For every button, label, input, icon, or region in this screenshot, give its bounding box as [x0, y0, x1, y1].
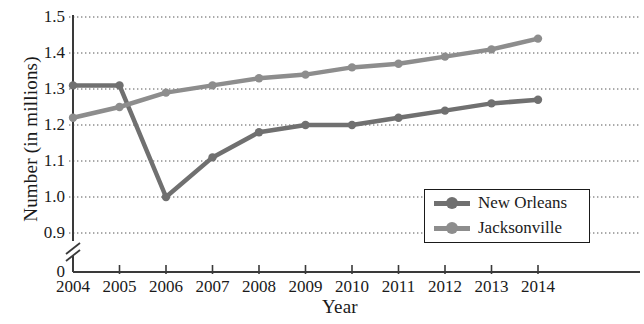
x-axis-title: Year [290, 296, 390, 318]
data-point [69, 81, 77, 89]
data-point [441, 52, 449, 60]
data-point [487, 45, 495, 53]
data-point [301, 70, 309, 78]
legend-dot [446, 197, 458, 209]
y-axis-tick-label: 1.4 [23, 43, 65, 63]
data-point [208, 153, 216, 161]
y-axis-tick-label: 1.3 [23, 79, 65, 99]
y-axis-tick-label: 0.9 [23, 223, 65, 243]
y-axis-tick-label: 1.0 [23, 187, 65, 207]
data-point [348, 121, 356, 129]
plot-area [0, 0, 644, 324]
data-point [301, 121, 309, 129]
legend-marker-new-orleans [434, 196, 470, 210]
legend-item-new-orleans[interactable]: New Orleans [425, 190, 589, 215]
x-axis-tick-label: 2014 [510, 277, 566, 297]
data-series [69, 34, 542, 201]
chart-legend: New Orleans Jacksonville [424, 189, 590, 243]
data-point [534, 34, 542, 42]
data-point [487, 99, 495, 107]
data-point [162, 88, 170, 96]
legend-label-jacksonville: Jacksonville [478, 219, 562, 236]
data-point [208, 81, 216, 89]
data-point [394, 114, 402, 122]
data-point [115, 103, 123, 111]
data-point [394, 60, 402, 68]
y-axis-tick-label: 1.5 [23, 7, 65, 27]
legend-dot [446, 222, 458, 234]
data-point [441, 106, 449, 114]
y-axis-tick-label: 1.1 [23, 151, 65, 171]
data-point [255, 74, 263, 82]
data-point [348, 63, 356, 71]
y-axis-tick-label: 1.2 [23, 115, 65, 135]
legend-label-new-orleans: New Orleans [478, 194, 567, 211]
legend-item-jacksonville[interactable]: Jacksonville [425, 215, 589, 240]
data-point [115, 81, 123, 89]
data-point [534, 96, 542, 104]
legend-marker-jacksonville [434, 221, 470, 235]
data-point [69, 114, 77, 122]
data-point [255, 128, 263, 136]
data-point [162, 193, 170, 201]
line-chart: Number (in millions) Year 00.91.01.11.21… [0, 0, 644, 324]
